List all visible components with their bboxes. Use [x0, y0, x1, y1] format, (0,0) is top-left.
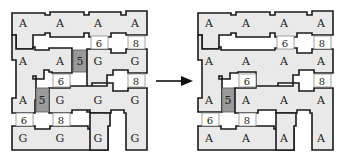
right-cell-r1c4: A [316, 17, 326, 30]
left-gray-label: 5 [39, 94, 46, 107]
right-door-label: 8 [244, 115, 250, 126]
right-gray-label: 5 [225, 94, 232, 107]
right-cell-r2c1: A [204, 55, 214, 68]
left-door-label: 8 [133, 76, 139, 87]
right-maze: A A A A A A A A A A A A A A A A 6 8 6 8 … [198, 11, 333, 150]
right-cell-r3c2: A [241, 94, 251, 107]
left-cell-r4c3: G [94, 132, 103, 145]
left-maze: A A A A A A G G A G G G G G G G 6 8 6 8 … [12, 11, 147, 150]
left-cell-r3c3: G [94, 94, 103, 107]
arrow-icon [156, 76, 193, 86]
left-cell-r1c2: A [55, 17, 65, 30]
left-cell-r2c3: G [94, 55, 103, 68]
left-gray-label: 5 [77, 55, 84, 68]
left-cell-r3c2: G [56, 94, 65, 107]
maze-transformation-diagram: A A A A A A G G A G G G G G G G 6 8 6 8 … [0, 0, 345, 158]
left-cell-r2c2: A [55, 55, 65, 68]
right-cell-r2c2: A [241, 55, 251, 68]
right-cell-r2c4: A [316, 55, 326, 68]
left-cell-r2c4: G [131, 55, 140, 68]
right-door-label: 8 [319, 38, 325, 49]
right-cell-r3c3: A [279, 94, 289, 107]
right-cell-r4c4: A [316, 132, 326, 145]
left-cell-r3c1: A [18, 94, 28, 107]
left-cell-r4c1: G [19, 132, 28, 145]
right-cell-r4c3: A [279, 132, 289, 145]
left-cell-r3c4: G [131, 94, 140, 107]
left-door-label: 6 [21, 115, 27, 126]
left-cell-r4c4: G [131, 132, 140, 145]
left-cell-r1c4: A [130, 17, 140, 30]
right-cell-r4c1: A [204, 132, 214, 145]
right-cell-r3c4: A [316, 94, 326, 107]
left-cell-r1c1: A [18, 17, 28, 30]
right-door-label: 6 [207, 115, 213, 126]
right-cell-r1c2: A [241, 17, 251, 30]
left-cell-r4c2: G [56, 132, 65, 145]
right-door-label: 6 [282, 38, 288, 49]
left-door-label: 8 [133, 38, 139, 49]
left-door-label: 6 [96, 38, 102, 49]
left-row1-room [12, 11, 147, 49]
right-cell-r4c2: A [241, 132, 251, 145]
right-row1-room [198, 11, 333, 49]
right-cell-r1c3: A [279, 17, 289, 30]
left-door-label: 6 [58, 76, 64, 87]
right-cell-r2c3: A [279, 55, 289, 68]
left-cell-r2c1: A [18, 55, 28, 68]
right-cell-r3c1: A [204, 94, 214, 107]
left-door-label: 8 [58, 115, 64, 126]
left-cell-r1c3: A [93, 17, 103, 30]
right-door-label: 6 [244, 76, 250, 87]
right-door-label: 8 [319, 76, 325, 87]
right-cell-r1c1: A [204, 17, 214, 30]
